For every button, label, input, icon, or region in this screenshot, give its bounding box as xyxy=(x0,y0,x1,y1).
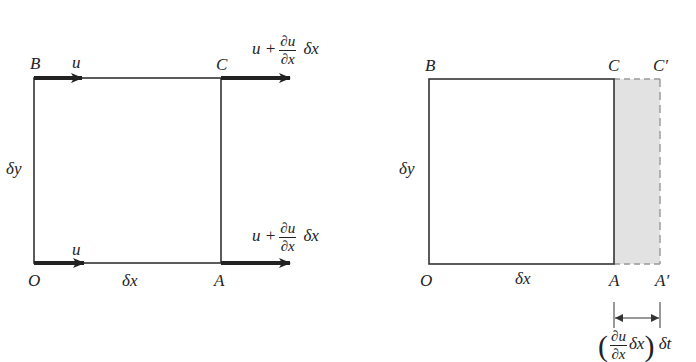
width-dx-right: δx xyxy=(515,270,530,287)
expr-prefix: u + xyxy=(252,39,276,58)
open-paren: ( xyxy=(598,329,608,362)
corner-C-left: C xyxy=(216,56,227,73)
displacement-expression: (∂u∂xδx) δt xyxy=(598,329,671,362)
right-fluid-element xyxy=(429,79,660,328)
velocity-gradient-bottom: u +∂u∂x δx xyxy=(252,221,319,254)
expr-suffix: δx xyxy=(303,39,318,58)
expr-prefix: u + xyxy=(252,226,276,245)
partial-fraction: ∂u∂x xyxy=(279,34,296,67)
corner-C-prime: C′ xyxy=(653,57,668,74)
corner-A-right: A xyxy=(609,272,619,289)
partial-fraction: ∂u∂x xyxy=(279,221,296,254)
corner-B-right: B xyxy=(425,57,435,74)
stretched-region xyxy=(614,79,660,264)
height-dy-right: δy xyxy=(399,160,414,177)
width-dx-left: δx xyxy=(122,272,137,289)
corner-A-prime: A′ xyxy=(655,272,669,289)
corner-O-right: O xyxy=(420,272,432,289)
partial-fraction: ∂u∂x xyxy=(610,329,627,362)
corner-A-left: A xyxy=(214,272,224,289)
corner-C-right: C xyxy=(608,57,619,74)
corner-O-left: O xyxy=(28,272,40,289)
velocity-u-bottom: u xyxy=(72,241,81,258)
expr-suffix: δx xyxy=(303,226,318,245)
corner-B-left: B xyxy=(30,55,40,72)
velocity-gradient-top: u +∂u∂x δx xyxy=(252,34,319,67)
height-dy-left: δy xyxy=(6,160,21,177)
velocity-u-top: u xyxy=(72,54,81,71)
close-paren: ) xyxy=(644,329,654,362)
